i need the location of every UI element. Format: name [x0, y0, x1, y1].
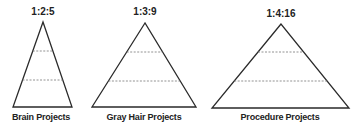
pyramid-procedure	[212, 24, 349, 108]
pyramid-gray-hair	[92, 23, 196, 107]
pyramid-brain	[13, 22, 72, 107]
caption-gray-hair-projects: Gray Hair Projects	[107, 112, 182, 122]
ratio-label-procedure: 1:4:16	[267, 8, 296, 19]
caption-brain-projects: Brain Projects	[12, 112, 70, 122]
pyramid-outline	[13, 22, 72, 107]
pyramid-outline	[92, 23, 196, 107]
ratio-label-brain: 1:2:5	[31, 6, 54, 17]
pyramid-diagram	[0, 0, 364, 128]
pyramid-outline	[212, 24, 349, 108]
caption-procedure-projects: Procedure Projects	[241, 112, 320, 122]
ratio-label-gray-hair: 1:3:9	[133, 6, 156, 17]
